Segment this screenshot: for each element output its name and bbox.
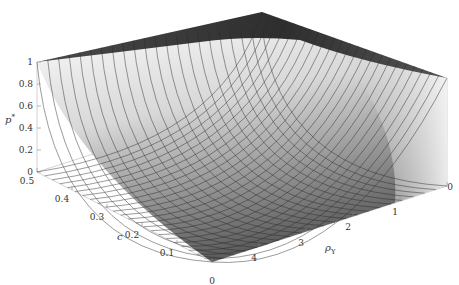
z-tick-label: 0.6 [19,101,34,111]
c-axis-label: c [117,231,123,242]
surface-plot: 00.20.40.60.81 p* 0.50.40.30.20.10 c 012… [0,0,459,285]
c-tick-label: 0 [209,276,215,285]
c-tick-label: 0.3 [90,212,105,222]
z-tick-label: 0.4 [19,123,34,133]
z-axis: 00.20.40.60.81 p* [5,57,41,177]
rho-tick-label: 4 [251,253,257,263]
z-tick-label: 0.2 [19,145,33,155]
c-tick-label: 0.5 [20,176,35,186]
z-tick-label: 1 [27,57,33,67]
rho-axis-label: ρY [324,242,336,256]
rho-tick-label: 1 [392,207,398,217]
rho-tick-label: 2 [345,222,351,232]
c-tick-label: 0.2 [125,230,139,240]
c-tick-label: 0.4 [55,194,70,204]
rho-tick-label: 3 [298,238,304,248]
z-axis-label: p* [5,113,15,125]
c-tick-label: 0.1 [160,248,174,258]
z-tick-label: 0.8 [19,79,34,89]
rho-tick-label: 0 [447,182,453,192]
